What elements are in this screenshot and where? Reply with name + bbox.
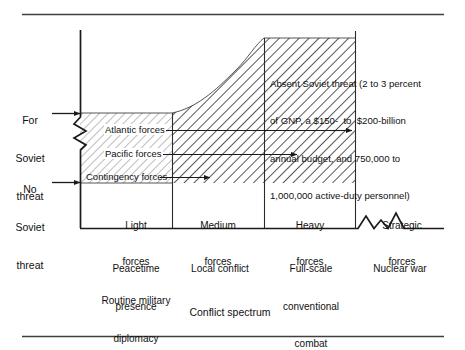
label-atlantic-forces: Atlantic forces bbox=[104, 124, 166, 135]
figure-root: For Soviet threat No Soviet threat Atlan… bbox=[0, 0, 465, 350]
callout-line: Absent Soviet threat (2 to 3 percent bbox=[270, 78, 456, 90]
stage-label-line: combat bbox=[266, 338, 356, 350]
tier-label-line: Heavy bbox=[274, 220, 346, 232]
axis-label-line: threat bbox=[8, 259, 52, 272]
tier-label-line: Medium bbox=[182, 220, 254, 232]
stage-label-full-scale-combat: Full-scale conventional combat bbox=[266, 238, 356, 350]
axis-label-no-soviet-threat: No Soviet threat bbox=[8, 157, 52, 298]
label-contingency-forces: Contingency forces bbox=[86, 171, 167, 182]
axis-label-line: For bbox=[8, 114, 52, 127]
tier-label-line: Light bbox=[100, 220, 172, 232]
stage-label-line: Nuclear war bbox=[358, 263, 442, 276]
axis-label-line: Soviet bbox=[8, 221, 52, 234]
tier-label-line: Strategic bbox=[366, 220, 438, 232]
stage-note-line: diplomacy bbox=[80, 333, 192, 346]
stage-label-line: Full-scale bbox=[266, 263, 356, 276]
axis-label-line: No bbox=[8, 183, 52, 196]
label-pacific-forces: Pacific forces bbox=[104, 148, 163, 159]
callout-line: of GNP, a $150- to $200-billion bbox=[270, 115, 456, 127]
callout-line: annual budget, and 750,000 to bbox=[270, 153, 456, 165]
x-axis-title: Conflict spectrum bbox=[140, 306, 320, 318]
stage-label-nuclear-war: Nuclear war bbox=[358, 238, 442, 301]
